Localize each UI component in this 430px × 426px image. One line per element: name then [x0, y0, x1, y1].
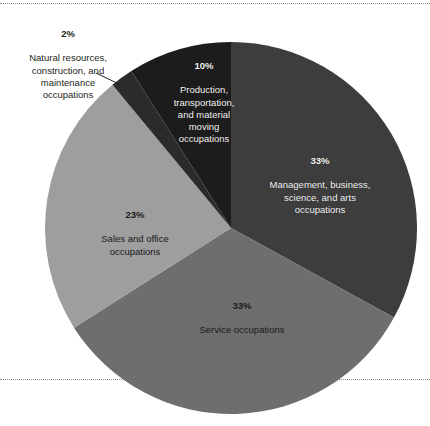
leader-line-natural-resources	[96, 73, 123, 86]
pie-chart-figure: 33% Management, business, science, and a…	[0, 0, 430, 426]
pie-chart-graphic	[0, 0, 430, 426]
